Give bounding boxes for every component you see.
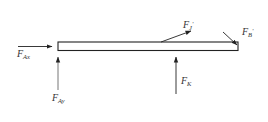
force-b-prime-label: FB' <box>241 26 254 38</box>
force-j-prime-label: FJ' <box>182 19 194 31</box>
beam <box>58 42 238 51</box>
force-k-label: FK <box>180 75 192 87</box>
force-ax-label: FAx <box>16 48 30 60</box>
force-ay-label: FAy <box>51 92 65 104</box>
free-body-diagram: FAx FAy FJ' FB' FK <box>0 0 268 122</box>
force-j-prime: FJ' <box>161 19 194 42</box>
force-k: FK <box>176 57 192 94</box>
force-ax: FAx <box>16 47 52 61</box>
force-j-prime-arrow-icon <box>161 31 191 42</box>
force-b-prime-arrow-icon <box>223 32 237 45</box>
force-ay: FAy <box>51 57 65 104</box>
